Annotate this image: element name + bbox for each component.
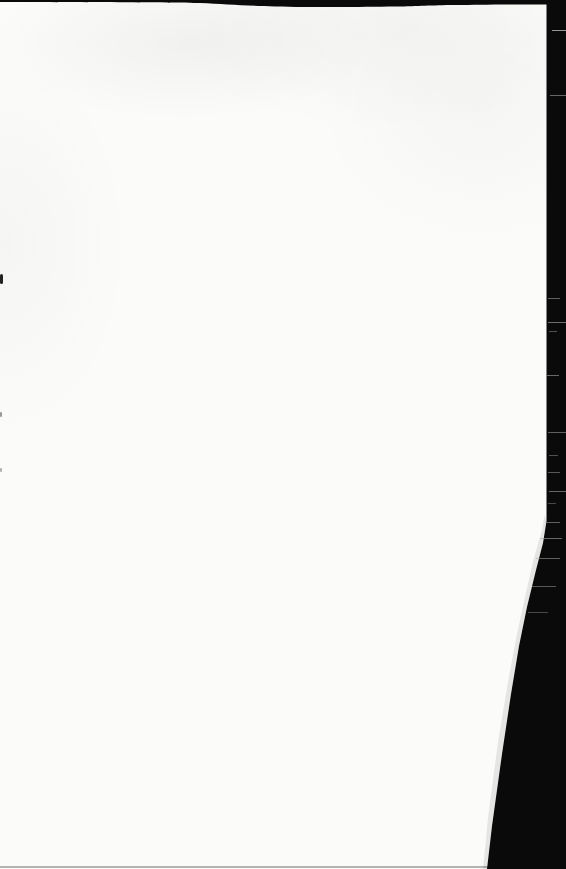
scan-speck-left: [0, 412, 2, 417]
page-bottom-edge-line: [0, 866, 566, 868]
scan-speck-left: [0, 468, 2, 472]
paper-surface: [0, 0, 566, 869]
scan-speck-left: [0, 274, 3, 284]
scanned-page: [0, 0, 566, 869]
